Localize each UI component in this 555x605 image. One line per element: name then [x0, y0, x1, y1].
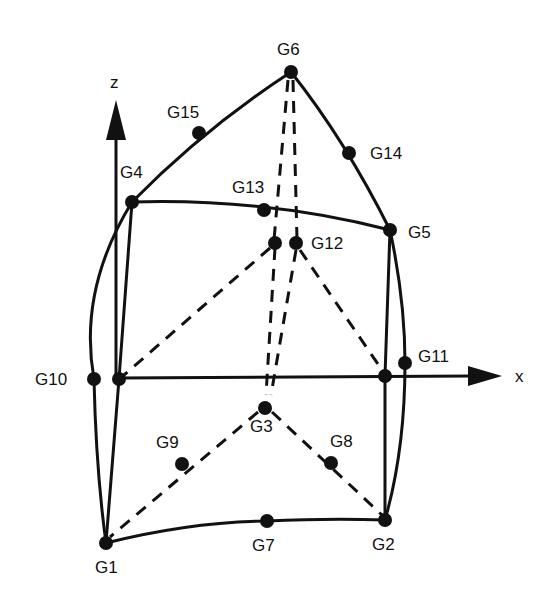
hidden-edge-apex-origin [124, 248, 270, 375]
node-g7 [260, 514, 274, 528]
node-g14 [342, 146, 356, 160]
node-g15 [192, 126, 206, 140]
label-g6: G6 [277, 40, 300, 59]
z-axis-label: z [110, 73, 119, 92]
hidden-edge-g3-g1 [110, 412, 258, 537]
label-g7: G7 [252, 536, 275, 555]
node-g11 [398, 356, 412, 370]
node-apex [268, 236, 282, 250]
node-g5 [383, 223, 397, 237]
node-g13 [257, 203, 271, 217]
x-axis-label: x [515, 367, 524, 386]
node-g12 [289, 236, 303, 250]
hidden-edge-g6-apex-right [293, 80, 297, 240]
edge-g1-g2 [106, 519, 385, 543]
label-g4: G4 [120, 163, 143, 182]
label-g10: G10 [35, 370, 67, 389]
edge-g4-g6 [132, 72, 291, 202]
x-axis [119, 366, 502, 386]
node-g9 [175, 457, 189, 471]
label-g8: G8 [330, 432, 353, 451]
label-g3: G3 [250, 417, 273, 436]
label-g13: G13 [232, 178, 264, 197]
label-g1: G1 [95, 558, 118, 577]
hidden-edge-g6-apex-left [274, 80, 288, 240]
node-origin [112, 372, 126, 386]
z-axis-arrowhead-icon [106, 100, 126, 140]
nodes [87, 65, 412, 550]
hidden-edge-apex-g3-left [266, 248, 275, 395]
element-diagram: z x [0, 0, 555, 605]
hidden-edges [110, 80, 382, 537]
node-g4 [125, 195, 139, 209]
hidden-edge-g12-x [300, 250, 382, 370]
node-g1 [99, 536, 113, 550]
node-x-right [378, 369, 392, 383]
label-g12: G12 [311, 234, 343, 253]
node-g6 [284, 65, 298, 79]
label-g15: G15 [167, 103, 199, 122]
x-axis-arrowhead-icon [468, 366, 502, 386]
label-g2: G2 [372, 535, 395, 554]
solid-edges [90, 72, 405, 543]
node-g2 [378, 513, 392, 527]
node-g8 [324, 456, 338, 470]
node-g10 [87, 372, 101, 386]
label-g11: G11 [418, 347, 449, 366]
node-g3 [258, 401, 272, 415]
label-g9: G9 [156, 433, 179, 452]
label-g5: G5 [408, 223, 431, 242]
label-g14: G14 [370, 144, 402, 163]
